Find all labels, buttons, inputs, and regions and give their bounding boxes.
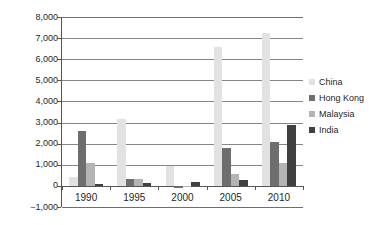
y-axis-tick-label: 2,000 (14, 139, 58, 148)
bar (174, 186, 183, 188)
x-axis-category-label: 2000 (158, 192, 206, 204)
bar (231, 174, 240, 185)
legend-swatch-icon (309, 95, 315, 101)
legend: ChinaHong KongMalaysiaIndia (309, 74, 391, 138)
x-axis-category-labels: 19901995200020052010 (62, 192, 303, 206)
y-axis-tick-label: 0 (14, 181, 58, 190)
y-axis-tick (57, 38, 61, 39)
legend-item-label: Malaysia (319, 109, 355, 119)
y-axis-tick (57, 207, 61, 208)
bar (126, 179, 135, 186)
gridline (62, 207, 303, 208)
x-axis-tick (158, 186, 159, 190)
x-axis-category-label: 1995 (110, 192, 158, 204)
x-axis-tick (110, 186, 111, 190)
bar (279, 163, 288, 186)
plot-area (62, 17, 303, 207)
legend-swatch-icon (309, 127, 315, 133)
legend-item-label: Hong Kong (319, 93, 364, 103)
bar (117, 119, 126, 186)
bar (86, 163, 95, 186)
bar (69, 177, 78, 185)
x-axis-tick (62, 186, 63, 190)
y-axis-tick-label: 6,000 (14, 55, 58, 64)
y-axis-tick-label: 7,000 (14, 34, 58, 43)
x-axis-tick (303, 186, 304, 190)
bar (95, 184, 104, 186)
y-axis-tick (57, 123, 61, 124)
bar (270, 142, 279, 186)
legend-item-label: India (319, 125, 339, 135)
legend-item[interactable]: India (309, 122, 391, 138)
bar (287, 125, 296, 186)
y-axis-tick (57, 80, 61, 81)
bar (191, 182, 200, 186)
y-axis-tick-label: 3,000 (14, 118, 58, 127)
y-axis-tick-labels: 8,0007,0006,0005,0004,0003,0002,0001,000… (14, 0, 58, 225)
bar (239, 180, 248, 185)
bar (183, 186, 192, 187)
bars-layer (62, 17, 303, 207)
bar (166, 166, 175, 186)
bar (78, 131, 87, 186)
bar (222, 148, 231, 186)
legend-swatch-icon (309, 111, 315, 117)
y-axis-tick-label: −1,000 (14, 203, 58, 212)
x-axis-tick (207, 186, 208, 190)
x-axis-category-label: 2005 (207, 192, 255, 204)
y-axis-tick (57, 165, 61, 166)
bar (214, 47, 223, 185)
x-axis-category-label: 2010 (255, 192, 303, 204)
y-axis-tick-label: 4,000 (14, 97, 58, 106)
y-axis-tick-label: 8,000 (14, 13, 58, 22)
bar (262, 33, 271, 186)
x-axis-tick (255, 186, 256, 190)
y-axis-tick (57, 59, 61, 60)
y-axis-tick (57, 17, 61, 18)
x-axis-category-label: 1990 (62, 192, 110, 204)
y-axis-tick-label: 5,000 (14, 76, 58, 85)
legend-item[interactable]: China (309, 74, 391, 90)
y-axis-tick (57, 144, 61, 145)
legend-item-label: China (319, 77, 343, 87)
legend-item[interactable]: Hong Kong (309, 90, 391, 106)
y-axis-tick-label: 1,000 (14, 160, 58, 169)
bar-chart: JP¥m 8,0007,0006,0005,0004,0003,0002,000… (0, 0, 391, 225)
legend-swatch-icon (309, 79, 315, 85)
legend-item[interactable]: Malaysia (309, 106, 391, 122)
bar (143, 183, 152, 186)
y-axis-tick (57, 101, 61, 102)
bar (134, 179, 143, 186)
y-axis-tick (57, 186, 61, 187)
